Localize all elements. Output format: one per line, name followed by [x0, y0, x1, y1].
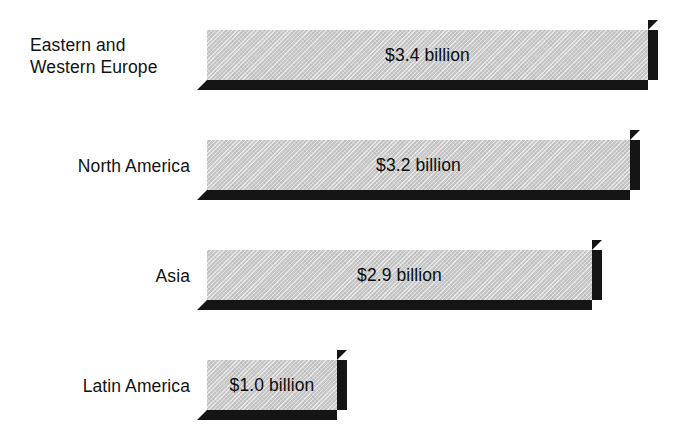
bar-value-label-asia: $2.9 billion — [207, 250, 592, 300]
bar-eastern-and-western-europe[interactable]: $3.4 billion — [207, 30, 648, 80]
bar-category-label-eastern-and-western-europe: Eastern and Western Europe — [30, 34, 200, 78]
chart-row: Latin America $1.0 billion — [0, 360, 679, 430]
chart-row: North America $3.2 billion — [0, 140, 679, 210]
bar-bottom-face — [207, 410, 337, 420]
bar-category-label-asia: Asia — [0, 265, 190, 287]
bar-value-label-latin-america: $1.0 billion — [207, 360, 337, 410]
bar-asia[interactable]: $2.9 billion — [207, 250, 592, 300]
bar-side-face — [337, 360, 347, 410]
bar-value-label-eastern-and-western-europe: $3.4 billion — [207, 30, 648, 80]
bar-category-label-north-america: North America — [0, 155, 190, 177]
bar-side-face — [592, 250, 602, 300]
bar-latin-america[interactable]: $1.0 billion — [207, 360, 337, 410]
chart-row: Asia $2.9 billion — [0, 250, 679, 320]
bar-value-label-north-america: $3.2 billion — [207, 140, 630, 190]
chart-row: Eastern and Western Europe $3.4 billion — [0, 30, 679, 100]
bar-bottom-face — [207, 300, 592, 310]
bar-bottom-face — [207, 80, 648, 90]
bar-side-face — [648, 30, 658, 80]
bar-bottom-face — [207, 190, 630, 200]
bar-category-label-latin-america: Latin America — [0, 375, 190, 397]
bar-side-face — [630, 140, 640, 190]
bar-north-america[interactable]: $3.2 billion — [207, 140, 630, 190]
horizontal-bar-chart: Eastern and Western Europe $3.4 billion … — [0, 0, 679, 439]
